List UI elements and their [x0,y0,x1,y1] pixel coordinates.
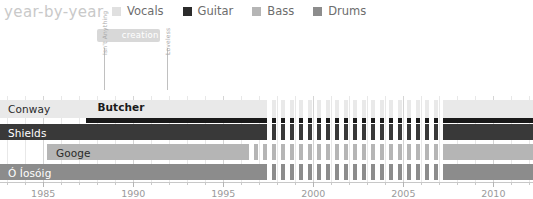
legend-item-bass[interactable]: Bass [252,4,294,18]
timeline-segment[interactable] [443,144,533,160]
timeline-segment[interactable] [443,124,533,140]
axis-tick-minor [511,182,512,185]
event-marker-label: Isn't Anything [101,11,108,55]
year-by-year-chart: year-by-year VocalsGuitarBassDrums creat… [0,0,533,199]
row-label--os-ig: Ó Íosóig [8,166,51,180]
legend-label: Vocals [127,4,164,18]
row-label-googe: Googe [56,146,91,160]
axis-tick-major [403,182,404,187]
axis-tick-minor [475,182,476,185]
legend-item-vocals[interactable]: Vocals [112,4,164,18]
timeline-plot: ConwayButcherShieldsGoogeÓ Íosóig [0,96,533,182]
row-label-shields: Shields [8,126,46,140]
axis-tick-major [223,182,224,187]
timeline-segment[interactable] [263,100,443,118]
axis-tick-minor [367,182,368,185]
row-label-butcher: Butcher [97,100,144,114]
axis-tick-minor [439,182,440,185]
axis-tick-minor [259,182,260,185]
axis-tick-major [133,182,134,187]
legend-item-drums[interactable]: Drums [313,4,366,18]
axis-tick-major [493,182,494,187]
axis-tick-minor [421,182,422,185]
legend-swatch-icon [112,7,121,16]
legend-swatch-icon [252,7,261,16]
legend-item-guitar[interactable]: Guitar [183,4,234,18]
axis-tick-minor [385,182,386,185]
axis-tick-minor [151,182,152,185]
axis-tick-minor [295,182,296,185]
axis-tick-minor [349,182,350,185]
legend-swatch-icon [313,7,322,16]
legend-label: Drums [328,4,366,18]
axis-tick-minor [457,182,458,185]
timeline-segment[interactable] [263,118,443,123]
legend-swatch-icon [183,7,192,16]
axis-tick-label: 1995 [211,188,235,199]
timeline-segment[interactable] [443,100,533,118]
timeline-segment[interactable] [263,124,443,140]
axis-tick-minor [115,182,116,185]
event-marker-label: Loveless [164,28,171,55]
axis-tick-label: 2000 [301,188,325,199]
axis-tick-minor [169,182,170,185]
timeline-segment[interactable] [245,144,443,160]
axis-tick-minor [7,182,8,185]
axis-tick-minor [61,182,62,185]
page-title: year-by-year [4,3,103,21]
axis-tick-minor [331,182,332,185]
axis-tick-minor [79,182,80,185]
axis-tick-label: 1990 [121,188,145,199]
time-axis: 198519901995200020052010 [0,182,533,199]
axis-tick-minor [241,182,242,185]
axis-tick-label: 1985 [31,188,55,199]
axis-tick-minor [529,182,530,185]
axis-tick-major [313,182,314,187]
legend-label: Guitar [198,4,234,18]
timeline-segment[interactable] [443,118,533,123]
axis-tick-minor [205,182,206,185]
axis-tick-label: 2010 [481,188,505,199]
chart-legend: VocalsGuitarBassDrums [112,4,385,18]
axis-tick-minor [187,182,188,185]
axis-tick-minor [277,182,278,185]
legend-label: Bass [267,4,294,18]
axis-tick-minor [25,182,26,185]
axis-tick-label: 2005 [391,188,415,199]
timeline-segment[interactable] [86,118,262,123]
axis-tick-minor [97,182,98,185]
timeline-segment[interactable] [263,164,443,180]
axis-tick-major [43,182,44,187]
timeline-segment[interactable] [443,164,533,180]
row-label-conway: Conway [8,102,50,116]
